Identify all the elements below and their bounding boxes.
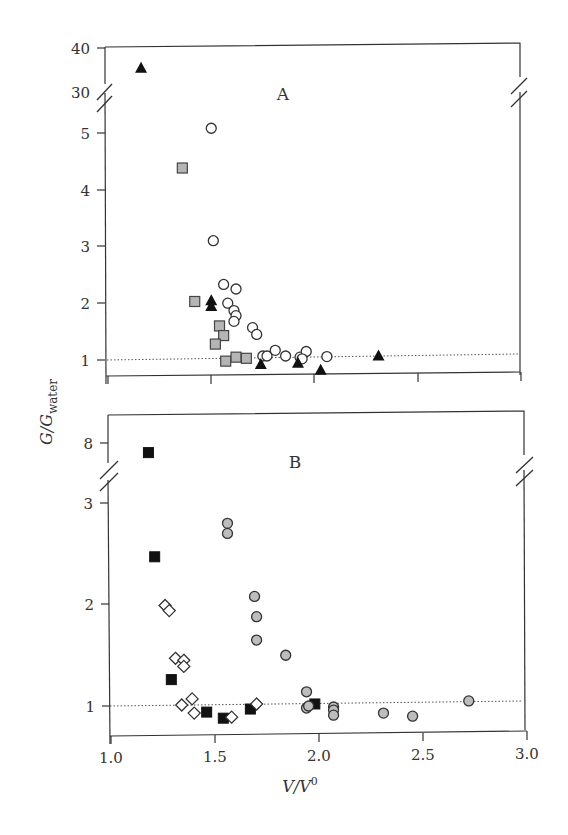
data-point-circle-grey <box>408 711 418 721</box>
data-point-circle-grey <box>252 635 262 645</box>
svg-text:G/Gwater: G/Gwater <box>37 379 60 445</box>
data-point-circle-open <box>281 351 291 361</box>
svg-text:V/V0: V/V0 <box>282 775 318 796</box>
figure: 40 30 5 4 3 2 1 A <box>0 0 568 835</box>
data-point-circle-open <box>231 284 241 294</box>
panel-a-x-axis <box>106 372 520 376</box>
data-point-circle-open <box>322 352 332 362</box>
panel-b-frame-right-lower <box>524 470 525 730</box>
data-point-circle-open <box>229 316 239 326</box>
data-point-circle-grey <box>329 710 339 720</box>
panel-a-markers <box>135 62 384 375</box>
x-axis-title: V/V0 <box>282 775 318 796</box>
panel-a-label: A <box>276 84 290 104</box>
data-point-circle-grey <box>250 591 260 601</box>
data-point-triangle-filled <box>205 300 217 311</box>
panel-b-label: B <box>289 452 302 472</box>
data-point-square-grey <box>190 296 200 306</box>
data-point-triangle-filled <box>135 62 147 73</box>
data-point-diamond-open <box>188 707 200 719</box>
panel-a-ytick-1: 1 <box>80 352 90 370</box>
data-point-circle-grey <box>222 518 232 528</box>
data-point-square-grey <box>210 339 220 349</box>
x-axis-title-superscript: 0 <box>311 775 318 788</box>
data-point-circle-grey <box>464 696 474 706</box>
x-tick-1-5: 1.5 <box>203 748 227 766</box>
panel-a-left-axis-lower <box>105 93 106 384</box>
data-point-square-filled <box>202 707 212 717</box>
data-point-circle-open <box>252 329 262 339</box>
panel-a: 40 30 5 4 3 2 1 A <box>71 40 527 384</box>
x-axis-title-main: V/V <box>282 777 312 796</box>
panel-a-reference-line <box>107 354 519 360</box>
data-point-circle-grey <box>302 687 312 697</box>
data-point-square-grey <box>215 321 225 331</box>
data-point-circle-open <box>270 345 280 355</box>
panel-b-ytick-1: 1 <box>85 698 95 716</box>
panel-b-frame-top <box>108 411 524 455</box>
data-point-square-grey <box>177 163 187 173</box>
data-point-triangle-filled <box>315 364 327 375</box>
y-axis-title: G/Gwater <box>37 379 60 445</box>
data-point-square-filled <box>166 675 176 685</box>
panel-b: 8 3 2 1 1.0 1.5 2.0 2.5 3.0 B <box>83 411 538 767</box>
data-point-diamond-open <box>176 699 188 711</box>
data-point-diamond-open <box>186 693 198 705</box>
data-point-square-filled <box>143 448 153 458</box>
x-tick-1-0: 1.0 <box>99 749 123 767</box>
data-point-triangle-filled <box>373 349 385 360</box>
x-tick-2-5: 2.5 <box>411 746 435 764</box>
panel-b-ytick-2: 2 <box>84 596 94 614</box>
y-axis-title-main: G/G <box>37 414 56 445</box>
panel-b-left-axis-lower <box>108 480 110 744</box>
data-point-circle-grey <box>222 528 232 538</box>
data-point-circle-grey <box>378 708 388 718</box>
panel-a-ytick-30: 30 <box>71 84 90 102</box>
panel-b-left-break-icon <box>100 461 118 491</box>
data-point-circle-grey <box>281 650 291 660</box>
x-tick-2-0: 2.0 <box>307 747 331 765</box>
data-point-square-grey <box>231 352 241 362</box>
panel-a-ytick-40: 40 <box>71 40 90 58</box>
panel-b-ytick-3: 3 <box>83 495 93 513</box>
panel-b-ytick-8: 8 <box>83 435 93 453</box>
panel-a-ytick-4: 4 <box>80 182 90 200</box>
panel-a-ytick-5: 5 <box>80 125 90 143</box>
y-axis-title-subscript: water <box>46 379 60 414</box>
panel-a-ytick-3: 3 <box>80 238 90 256</box>
panel-a-ytick-2: 2 <box>80 295 90 313</box>
data-point-circle-grey <box>304 701 314 711</box>
data-point-circle-open <box>208 236 218 246</box>
x-tick-3-0: 3.0 <box>515 745 539 763</box>
data-point-square-grey <box>221 356 231 366</box>
data-point-square-filled <box>150 552 160 562</box>
panel-b-markers <box>143 448 473 724</box>
data-point-circle-grey <box>252 612 262 622</box>
data-point-square-grey <box>241 353 251 363</box>
data-point-circle-open <box>219 279 229 289</box>
data-point-circle-open <box>206 123 216 133</box>
panel-a-frame-top <box>105 43 520 77</box>
panel-a-right-break-icon <box>511 78 527 107</box>
